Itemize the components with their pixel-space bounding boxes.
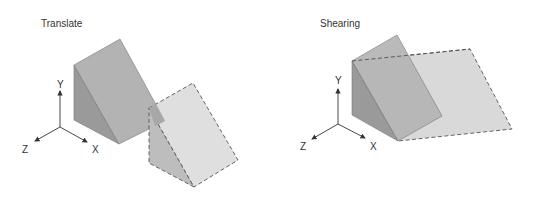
x-axis-label: X bbox=[92, 144, 99, 155]
y-axis-label: Y bbox=[57, 79, 64, 90]
x-axis-arrow bbox=[60, 127, 87, 142]
z-axis-label: Z bbox=[300, 141, 306, 152]
shearing-panel: Shearing Y Z X bbox=[300, 18, 512, 152]
z-axis-label: Z bbox=[22, 144, 28, 155]
y-axis-label: Y bbox=[335, 75, 342, 86]
translated-wedge bbox=[149, 83, 238, 187]
z-axis-arrow bbox=[312, 124, 338, 139]
z-axis-arrow bbox=[35, 127, 60, 141]
x-axis-label: X bbox=[370, 141, 377, 152]
x-axis-arrow bbox=[338, 124, 365, 138]
translate-panel: Translate Y Z X bbox=[22, 18, 238, 187]
shearing-title: Shearing bbox=[320, 18, 360, 29]
diagram-canvas: Translate Y Z X Shearing bbox=[0, 0, 537, 206]
translate-title: Translate bbox=[41, 18, 83, 29]
